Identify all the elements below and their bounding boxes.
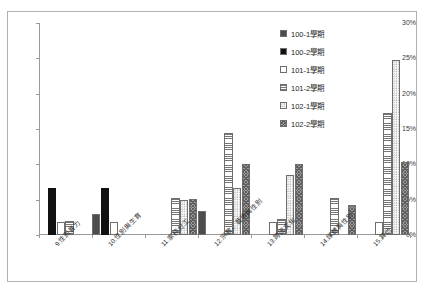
legend-swatch-icon [280,30,287,37]
legend-swatch-icon [280,84,287,91]
x-tick-mark [39,235,40,238]
legend-item[interactable]: 100-1學期 [280,24,370,42]
x-tick-mark [145,235,146,238]
bar[interactable] [383,113,391,235]
bar-group [198,23,251,235]
x-tick-mark [92,235,93,238]
bar-group [92,23,145,235]
legend-swatch-icon [280,120,287,127]
bar[interactable] [48,188,56,235]
bar[interactable] [401,162,409,235]
legend-label: 100-1學期 [291,28,324,39]
legend-label: 102-1學期 [291,100,324,111]
bar[interactable] [101,188,109,235]
legend-item[interactable]: 100-2學期 [280,42,370,60]
legend-swatch-icon [280,66,287,73]
x-tick-mark [304,235,305,238]
chart-legend: 100-1學期100-2學期101-1學期101-2學期102-1學期102-2… [280,24,370,132]
x-tick-mark [251,235,252,238]
bar-group [39,23,92,235]
chart-container: 0%5%10%15%20%25%30% 9.性別暴力10.性別與生育11.家務分… [7,11,417,282]
bar[interactable] [198,211,206,235]
bar-group [145,23,198,235]
legend-swatch-icon [280,102,287,109]
bar[interactable] [242,164,250,235]
bar[interactable] [92,214,100,235]
bar[interactable] [189,199,197,235]
x-tick-mark [198,235,199,238]
x-tick-mark [410,235,411,238]
legend-item[interactable]: 102-1學期 [280,96,370,114]
legend-item[interactable]: 102-2學期 [280,114,370,132]
legend-swatch-icon [280,48,287,55]
legend-label: 102-2學期 [291,118,324,129]
legend-item[interactable]: 101-2學期 [280,78,370,96]
legend-label: 101-2學期 [291,82,324,93]
legend-item[interactable]: 101-1學期 [280,60,370,78]
bar[interactable] [392,60,400,235]
bar[interactable] [295,164,303,235]
x-tick-mark [357,235,358,238]
legend-label: 100-2學期 [291,46,324,57]
legend-label: 101-1學期 [291,64,324,75]
